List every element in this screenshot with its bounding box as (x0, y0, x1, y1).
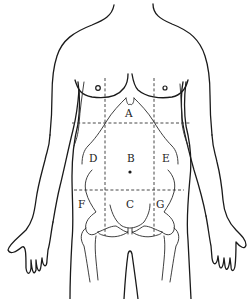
left-femur (81, 228, 98, 282)
region-label-d: D (89, 152, 97, 164)
inner-legs (124, 251, 138, 299)
left-neck-shoulder (50, 5, 114, 135)
pelvis (81, 170, 179, 282)
region-label-e: E (162, 152, 170, 164)
left-iliac-crest (85, 170, 98, 235)
left-arm-inner (53, 90, 79, 222)
right-costal-margin (134, 98, 178, 164)
umbilicus-dot (128, 170, 131, 173)
abdominal-regions-diagram: A B C D E F G (0, 0, 250, 299)
left-nipple (96, 86, 101, 91)
region-label-f: F (78, 198, 85, 210)
right-pectoral (132, 74, 188, 98)
pubic-symphysis (128, 228, 132, 234)
right-arm-outer (206, 135, 246, 271)
right-nipple (163, 86, 167, 90)
left-torso-side (70, 82, 80, 299)
region-label-a: A (124, 107, 133, 119)
left-arm-outer (8, 135, 53, 273)
left-pubic-ramus (98, 226, 128, 237)
region-label-b: B (127, 152, 135, 164)
right-pubic-ramus (132, 226, 162, 237)
right-torso-side (185, 82, 192, 299)
xiphoid (126, 98, 134, 105)
region-label-g: G (156, 198, 164, 210)
chest (74, 74, 188, 164)
region-label-c: C (126, 198, 134, 210)
region-labels: A B C D E F G (78, 107, 170, 210)
right-neck-shoulder (153, 4, 212, 135)
right-femur (162, 228, 179, 282)
left-pectoral (75, 74, 128, 98)
